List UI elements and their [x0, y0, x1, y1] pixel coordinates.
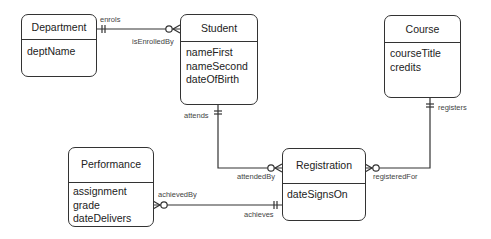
attribute: dateOfBirth: [186, 73, 248, 87]
attribute: grade: [73, 199, 131, 213]
relationship-label-achieved-by: achievedBy: [158, 190, 197, 199]
attribute: assignment: [73, 185, 131, 199]
attribute: courseTitle: [390, 47, 441, 61]
relationship-label-attends: attends: [184, 111, 209, 120]
divider: [22, 39, 96, 40]
attribute-list: assignment grade dateDelivers: [73, 185, 131, 226]
attribute: nameFirst: [186, 46, 248, 60]
attribute-list: nameFirst nameSecond dateOfBirth: [186, 46, 248, 87]
attribute: nameSecond: [186, 60, 248, 74]
relationship-label-enrols: enrols: [100, 15, 120, 24]
attribute-list: deptName: [27, 45, 75, 59]
attribute: dateSignsOn: [287, 188, 348, 202]
attribute-list: courseTitle credits: [390, 47, 441, 74]
relationship-label-is-enrolled-by: isEnrolledBy: [132, 37, 174, 46]
entity-department[interactable]: Department deptName: [21, 14, 97, 77]
entity-performance[interactable]: Performance assignment grade dateDeliver…: [68, 147, 154, 227]
connector-registers: [365, 98, 430, 168]
entity-student[interactable]: Student nameFirst nameSecond dateOfBirth: [180, 14, 258, 105]
divider: [69, 182, 153, 183]
entity-title: Registration: [283, 159, 365, 171]
relationship-label-registered-for: registeredFor: [373, 172, 418, 181]
attribute-list: dateSignsOn: [287, 188, 348, 202]
entity-title: Department: [22, 21, 96, 33]
divider: [181, 41, 257, 42]
relationship-label-achieves: achieves: [244, 210, 274, 219]
entity-title: Performance: [69, 158, 153, 170]
relationship-label-registers: registers: [438, 103, 467, 112]
attribute: dateDelivers: [73, 212, 131, 226]
divider: [385, 42, 460, 43]
connector-attends: [218, 105, 282, 168]
relationship-label-attended-by: attendedBy: [237, 172, 275, 181]
entity-registration[interactable]: Registration dateSignsOn: [282, 148, 366, 221]
entity-course[interactable]: Course courseTitle credits: [384, 15, 461, 98]
entity-title: Student: [181, 22, 257, 34]
attribute: deptName: [27, 45, 75, 59]
divider: [283, 183, 365, 184]
entity-title: Course: [385, 23, 460, 35]
attribute: credits: [390, 61, 441, 75]
